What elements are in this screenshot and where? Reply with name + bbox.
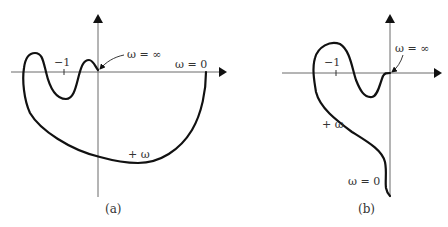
panel-a: −1 ω = ∞ ω = 0 + ω (a) <box>11 14 227 216</box>
omega-inf-leader-b <box>392 55 403 72</box>
imag-axis-arrow-icon-b <box>385 14 395 23</box>
real-axis-arrow-icon-a <box>219 67 227 77</box>
omega-inf-label-b: ω = ∞ <box>395 42 429 55</box>
omega-zero-label-b: ω = 0 <box>348 175 380 188</box>
caption-b: (b) <box>358 202 375 216</box>
real-axis-arrow-icon-b <box>434 68 442 78</box>
omega-inf-label-a: ω = ∞ <box>127 48 161 61</box>
nyquist-figure: −1 ω = ∞ ω = 0 + ω (a) −1 ω = ∞ ω = 0 + … <box>0 0 448 227</box>
omega-zero-label-a: ω = 0 <box>175 58 207 71</box>
minus-one-label-a: −1 <box>54 56 70 69</box>
minus-one-label-b: −1 <box>324 56 340 69</box>
caption-a: (a) <box>105 202 122 216</box>
imag-axis-arrow-icon-a <box>93 14 103 23</box>
plus-omega-label-b: + ω <box>322 118 344 131</box>
panel-b: −1 ω = ∞ ω = 0 + ω (b) <box>282 14 442 216</box>
omega-inf-leader-a <box>100 55 124 69</box>
plus-omega-label-a: + ω <box>128 148 150 161</box>
